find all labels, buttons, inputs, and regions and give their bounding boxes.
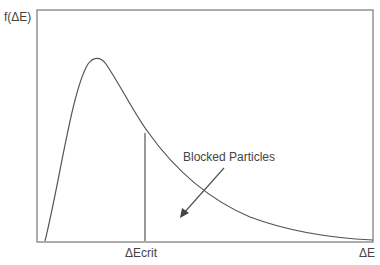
x-axis-label: ΔE [359,246,375,260]
critical-energy-label: ΔEcrit [125,246,157,260]
plot-frame [37,10,373,242]
blocked-arrow-shaft [183,168,224,214]
y-axis-label: f(ΔE) [4,10,31,24]
blocked-particles-label: Blocked Particles [183,150,275,164]
distribution-diagram [0,0,380,265]
